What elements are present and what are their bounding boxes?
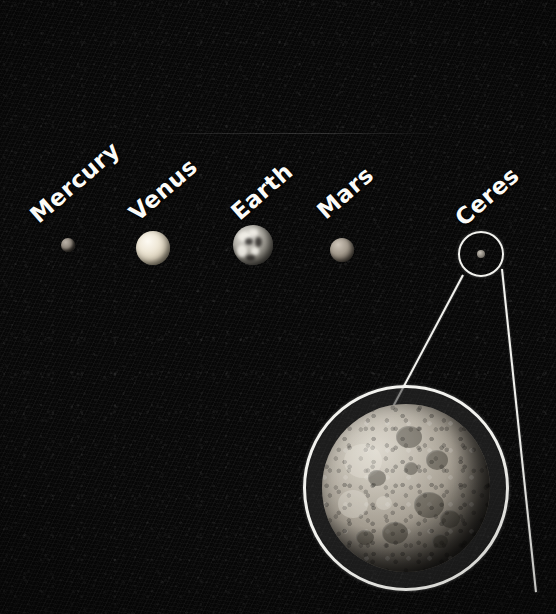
planet-mercury [61, 238, 75, 252]
film-scratch-line [150, 133, 450, 134]
planet-ceres-small [477, 250, 485, 258]
planet-ceres-magnified [322, 404, 490, 572]
size-comparison-figure: Mercury Venus Earth Mars Ceres [0, 0, 556, 614]
planet-venus [136, 231, 170, 265]
planet-mars [330, 238, 354, 262]
planet-earth [233, 225, 273, 265]
surface-terminator-shading [322, 404, 490, 572]
